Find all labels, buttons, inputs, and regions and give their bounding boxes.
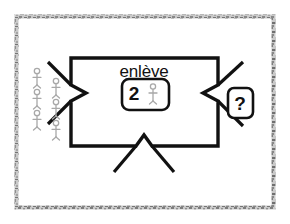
- stick-figure-icon: [52, 78, 60, 98]
- output-box: [228, 88, 253, 118]
- stick-figure-icon: [33, 89, 41, 109]
- operand-box: [122, 79, 169, 110]
- function-machine-diagram: [0, 0, 290, 224]
- input-column-left: [33, 68, 41, 130]
- stick-figure-icon: [52, 120, 60, 140]
- worksheet-canvas: enlève 2 ?: [0, 0, 290, 224]
- stick-figure-icon: [52, 99, 60, 119]
- arrow-inlet-bottom: [114, 146, 174, 172]
- input-column-right: [52, 78, 60, 140]
- arrow-inlet-left: [48, 62, 71, 124]
- stick-figure-icon: [33, 68, 41, 88]
- stick-figure-icon: [33, 110, 41, 130]
- input-figure-group: [33, 68, 60, 140]
